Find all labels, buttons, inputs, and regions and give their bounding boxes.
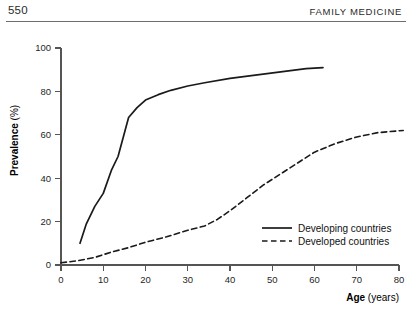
series-developing-countries-line bbox=[80, 68, 323, 244]
x-tick-label: 0 bbox=[58, 274, 63, 285]
x-tick-label: 50 bbox=[267, 274, 278, 285]
x-tick-label: 60 bbox=[309, 274, 320, 285]
y-axis-title-strong: Prevalence bbox=[9, 123, 20, 176]
chart-canvas: 020406080100 01020304050607080 Prevalenc… bbox=[0, 26, 412, 310]
x-tick-label: 30 bbox=[182, 274, 193, 285]
x-axis-ticks: 01020304050607080 bbox=[58, 265, 404, 285]
header-divider bbox=[6, 21, 406, 22]
y-tick-label: 40 bbox=[40, 173, 51, 184]
x-axis-title-unit: (years) bbox=[365, 292, 399, 303]
y-tick-label: 100 bbox=[35, 42, 51, 53]
chart-legend: Developing countries Developed countries bbox=[262, 223, 391, 247]
legend-label-developed: Developed countries bbox=[298, 236, 389, 247]
y-tick-label: 80 bbox=[40, 86, 51, 97]
y-tick-label: 0 bbox=[46, 259, 51, 270]
prevalence-by-age-chart: 020406080100 01020304050607080 Prevalenc… bbox=[0, 26, 412, 310]
y-axis-title-unit: (%) bbox=[9, 105, 20, 123]
x-axis-title: Age (years) bbox=[346, 292, 399, 303]
journal-title: FAMILY MEDICINE bbox=[310, 6, 403, 17]
y-tick-label: 20 bbox=[40, 216, 51, 227]
y-axis-ticks: 020406080100 bbox=[35, 42, 61, 270]
x-tick-label: 70 bbox=[351, 274, 362, 285]
y-axis-title: Prevalence (%) bbox=[9, 105, 20, 176]
page-header: 550 FAMILY MEDICINE bbox=[0, 0, 412, 26]
x-axis-title-strong: Age bbox=[346, 292, 365, 303]
y-tick-label: 60 bbox=[40, 129, 51, 140]
page-number: 550 bbox=[8, 4, 28, 16]
x-tick-label: 40 bbox=[225, 274, 236, 285]
x-tick-label: 80 bbox=[394, 274, 405, 285]
x-tick-label: 10 bbox=[98, 274, 109, 285]
legend-label-developing: Developing countries bbox=[298, 223, 391, 234]
x-tick-label: 20 bbox=[140, 274, 151, 285]
